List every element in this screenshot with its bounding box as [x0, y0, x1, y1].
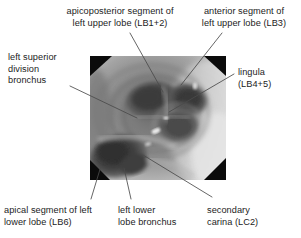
annotation-left-lower-lobe-bronchus: left lower lobe bronchus [118, 205, 198, 228]
annotation-apicoposterior-segment-lb1-2: apicoposterior segment of left upper lob… [52, 6, 188, 29]
annotation-apical-segment-lb6: apical segment of left lower lobe (LB6) [4, 205, 112, 228]
figure-container: apicoposterior segment of left upper lob… [0, 0, 301, 238]
bronchoscopy-image-canvas [90, 56, 226, 180]
annotation-left-superior-division-bronchus: left superior division bronchus [8, 52, 86, 87]
annotation-lingula-lb4-5: lingula (LB4+5) [238, 67, 298, 90]
annotation-anterior-segment-lb3: anterior segment of left upper lobe (LB3… [192, 6, 296, 29]
annotation-secondary-carina-lc2: secondary carina (LC2) [207, 205, 293, 228]
bronchoscopy-image [90, 56, 226, 180]
